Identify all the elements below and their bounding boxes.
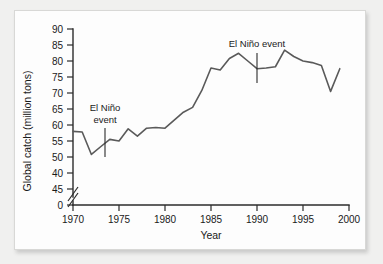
x-tick-label: 2000 (338, 214, 361, 225)
chart-panel: Global catch (million tons) Year 90 85 8… (14, 10, 366, 250)
x-tick-label: 1980 (154, 214, 177, 225)
line-chart: Global catch (million tons) Year 90 85 8… (15, 11, 367, 251)
x-axis-title: Year (200, 229, 222, 241)
figure-root: Global catch (million tons) Year 90 85 8… (0, 0, 383, 264)
y-tick-label: 40 (52, 168, 64, 179)
x-tick-label: 1975 (108, 214, 131, 225)
y-tick-label: 90 (52, 24, 64, 35)
y-tick-label: 85 (52, 40, 64, 51)
y-tick-label: 0 (57, 200, 63, 211)
x-axis-tick-marks (73, 205, 349, 211)
y-axis-title: Global catch (million tons) (21, 71, 33, 192)
y-tick-label: 60 (52, 120, 64, 131)
y-tick-label: 70 (52, 88, 64, 99)
annotation-el-nino-1972: El Niño event (90, 102, 121, 157)
y-axis-tick-labels: 90 85 80 75 70 65 60 55 50 40 45 0 (52, 24, 64, 211)
x-tick-label: 1990 (246, 214, 269, 225)
x-tick-label: 1970 (62, 214, 85, 225)
y-tick-label: 50 (52, 152, 64, 163)
y-tick-label: 55 (52, 136, 64, 147)
x-tick-label: 1985 (200, 214, 223, 225)
annotation-label-line: El Niño event (229, 38, 286, 49)
annotation-label-line: event (93, 114, 117, 125)
y-tick-label: 80 (52, 56, 64, 67)
annotation-label-line: El Niño (90, 102, 121, 113)
y-axis-tick-marks (67, 29, 73, 205)
x-axis-tick-labels: 1970 1975 1980 1985 1990 1995 2000 (62, 214, 361, 225)
x-tick-label: 1995 (292, 214, 315, 225)
y-tick-label: 65 (52, 104, 64, 115)
y-tick-label: 75 (52, 72, 64, 83)
annotation-el-nino-1991: El Niño event (229, 38, 286, 83)
y-tick-label: 45 (52, 184, 64, 195)
